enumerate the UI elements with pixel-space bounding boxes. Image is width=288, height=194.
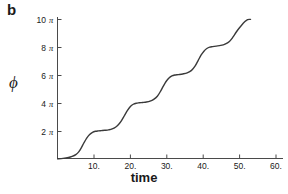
x-tick-label-4: 50. bbox=[234, 161, 246, 171]
y-tick-label-number-1: 4 bbox=[41, 99, 46, 109]
y-tick-4pi: 4 π bbox=[41, 99, 61, 109]
x-tick-label-2: 30. bbox=[161, 161, 173, 171]
x-tick-30: 30. bbox=[161, 155, 173, 172]
y-tick-label-unit-0: π bbox=[49, 127, 54, 137]
y-tick-label-number-4: 10 bbox=[37, 15, 47, 25]
x-tick-label-1: 20. bbox=[124, 161, 136, 171]
x-tick-10: 10. bbox=[88, 155, 100, 172]
y-tick-label-unit-2: π bbox=[49, 71, 54, 81]
chart-plot-area: 2 π 4 π 6 π 8 π 10 π bbox=[0, 0, 288, 194]
x-tick-label-5: 60. bbox=[270, 161, 282, 171]
x-tick-20: 20. bbox=[124, 155, 136, 172]
y-tick-8pi: 8 π bbox=[41, 43, 61, 53]
y-tick-6pi: 6 π bbox=[41, 71, 61, 81]
y-tick-label-number-3: 8 bbox=[41, 43, 46, 53]
x-tick-label-0: 10. bbox=[88, 161, 100, 171]
y-tick-2pi: 2 π bbox=[41, 127, 61, 137]
y-tick-label-number-2: 6 bbox=[41, 71, 46, 81]
y-tick-label-number-0: 2 bbox=[41, 127, 46, 137]
y-tick-label-unit-1: π bbox=[49, 99, 54, 109]
figure-panel-b: b ϕ time 2 π 4 π 6 π bbox=[0, 0, 288, 194]
x-tick-40: 40. bbox=[197, 155, 209, 172]
y-tick-label-unit-4: π bbox=[49, 15, 54, 25]
x-tick-50: 50. bbox=[234, 155, 246, 172]
y-tick-label-unit-3: π bbox=[49, 43, 54, 53]
x-axis-ticks: 10. 20. 30. 40. 50. 60. bbox=[88, 155, 282, 172]
x-tick-label-3: 40. bbox=[197, 161, 209, 171]
x-tick-60: 60. bbox=[270, 155, 282, 172]
data-curve-phase bbox=[58, 19, 251, 159]
